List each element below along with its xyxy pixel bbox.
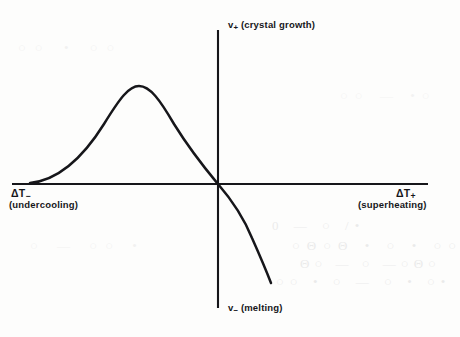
y-axis-positive-subscript: + [233,23,238,32]
axes-group [12,30,428,308]
x-axis-negative-symbol: ΔT [11,187,25,199]
y-axis-negative-text: (melting) [241,302,283,313]
y-axis-positive-text: (crystal growth) [241,19,315,30]
x-axis-negative-text-label: (undercooling) [9,200,78,210]
y-axis-positive-label: v+ (crystal growth) [228,20,315,32]
x-axis-positive-text-label: (superheating) [358,200,427,210]
x-axis-positive-symbol: ΔT [396,187,410,199]
y-axis-negative-label: v− (melting) [228,303,283,315]
y-axis-negative-subscript: − [233,306,238,315]
